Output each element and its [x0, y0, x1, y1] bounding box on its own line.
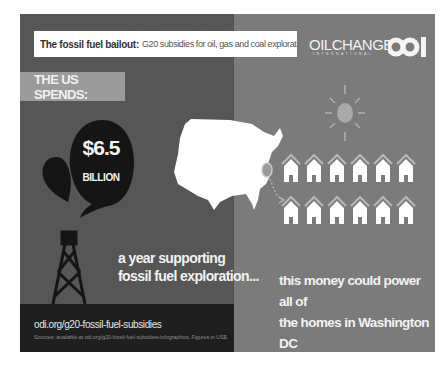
house-icon	[397, 197, 415, 224]
right-caption-line: this money could power all of	[279, 270, 435, 312]
house-icon	[397, 155, 415, 182]
house-icon	[351, 155, 369, 182]
house-row	[282, 197, 415, 224]
left-caption: a year supporting fossil fuel exploratio…	[118, 249, 259, 285]
sources-note: Sources: available at odi.org/g20-fossil…	[34, 334, 228, 340]
house-icon	[374, 197, 392, 224]
source-url[interactable]: odi.org/g20-fossil-fuel-subsidies	[34, 319, 161, 330]
left-caption-line: a year supporting	[118, 249, 259, 267]
house-icon	[282, 197, 300, 224]
amount-unit: BILLION	[72, 172, 130, 183]
house-icon	[282, 155, 300, 182]
oil-derrick-icon	[53, 232, 85, 304]
house-icon	[328, 197, 346, 224]
right-caption: this money could power all of the homes …	[279, 270, 435, 352]
infographic: The fossil fuel bailout: G20 subsidies f…	[20, 14, 435, 352]
us-map-icon	[174, 119, 284, 210]
left-caption-line: fossil fuel exploration...	[118, 267, 259, 285]
house-icon	[374, 155, 392, 182]
house-row	[282, 155, 415, 182]
sun-icon	[325, 85, 365, 141]
oil-drop-icon	[43, 120, 135, 218]
houses-grid	[282, 155, 415, 224]
house-icon	[328, 155, 346, 182]
right-caption-line: the homes in Washington DC	[279, 312, 435, 352]
house-icon	[305, 155, 323, 182]
house-icon	[351, 197, 369, 224]
house-icon	[305, 197, 323, 224]
amount-value: $6.5	[72, 137, 130, 158]
